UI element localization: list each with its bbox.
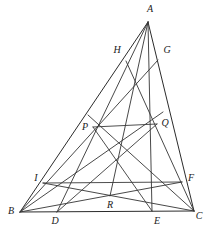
- geometry-figure: A B C D E F G H I P Q R: [0, 0, 209, 242]
- vertex-label-G: G: [163, 45, 170, 55]
- vertex-label-C: C: [196, 211, 203, 221]
- vertex-label-P: P: [82, 122, 88, 132]
- vertex-label-A: A: [147, 4, 153, 14]
- cevian-B-F: [20, 182, 182, 212]
- vertex-label-D: D: [51, 216, 58, 226]
- cevian-B-Q: [20, 112, 163, 212]
- figure-canvas: [0, 0, 209, 242]
- vertex-label-H: H: [113, 45, 120, 55]
- cevian-A-D: [57, 22, 148, 212]
- vertex-label-F: F: [188, 173, 194, 183]
- vertex-label-R: R: [107, 200, 113, 210]
- cevians-from-A: [57, 22, 152, 212]
- side-BC: [20, 211, 194, 212]
- vertex-label-B: B: [8, 206, 14, 216]
- vertex-label-Q: Q: [161, 118, 168, 128]
- segment-I-F: [43, 182, 182, 183]
- cevians-from-B: [20, 60, 182, 212]
- vertex-label-I: I: [34, 173, 37, 183]
- side-AB: [20, 22, 148, 212]
- cevian-B-G: [20, 60, 158, 212]
- cevian-C-I: [43, 183, 194, 211]
- vertex-label-E: E: [154, 216, 160, 226]
